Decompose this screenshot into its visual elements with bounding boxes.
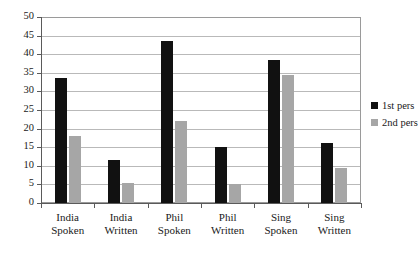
y-axis-tick-label: 35 <box>4 67 34 77</box>
y-axis-tick <box>37 36 41 37</box>
legend-label: 2nd pers <box>382 117 418 128</box>
bars-layer <box>42 18 360 203</box>
y-axis-tick <box>37 91 41 92</box>
x-axis-label-line: Spoken <box>251 224 311 237</box>
legend-item: 1st pers <box>371 97 417 114</box>
x-axis-tick <box>308 204 309 208</box>
bar-chart: 05101520253035404550 IndiaSpokenIndiaWri… <box>0 0 418 253</box>
y-axis-tick <box>37 147 41 148</box>
y-axis-tick-label: 10 <box>4 160 34 170</box>
x-axis-label-line: Written <box>91 224 151 237</box>
y-axis-tick <box>37 73 41 74</box>
x-axis-label-line: India <box>38 211 98 224</box>
x-axis-label-line: Spoken <box>38 224 98 237</box>
x-axis-label-line: Phil <box>144 211 204 224</box>
y-axis-tick-label: 0 <box>4 197 34 207</box>
y-axis-tick-label: 5 <box>4 178 34 188</box>
y-axis-tick-label: 45 <box>4 30 34 40</box>
x-axis-tick <box>41 204 42 208</box>
x-axis-tick-label: SingWritten <box>304 211 364 237</box>
y-axis-tick-label: 40 <box>4 48 34 58</box>
bar <box>122 183 134 203</box>
bar <box>321 143 333 203</box>
x-axis-tick <box>148 204 149 208</box>
y-axis-tick-label: 15 <box>4 141 34 151</box>
x-axis-tick <box>201 204 202 208</box>
legend-swatch-icon <box>371 102 378 109</box>
bar <box>69 136 81 203</box>
bar <box>282 75 294 203</box>
x-axis-label-line: Written <box>304 224 364 237</box>
y-axis-tick <box>37 110 41 111</box>
x-axis-tick-label: SingSpoken <box>251 211 311 237</box>
y-axis-tick-label: 30 <box>4 85 34 95</box>
legend-swatch-icon <box>371 119 378 126</box>
legend-item: 2nd pers <box>371 114 417 131</box>
x-axis-label-line: Phil <box>198 211 258 224</box>
bar <box>161 41 173 203</box>
bar <box>229 184 241 203</box>
x-axis-label-line: Sing <box>304 211 364 224</box>
y-axis-tick <box>37 166 41 167</box>
x-axis-label-line: Spoken <box>144 224 204 237</box>
y-axis-tick <box>37 129 41 130</box>
x-axis-tick <box>361 204 362 208</box>
y-axis-tick <box>37 54 41 55</box>
x-axis-tick <box>94 204 95 208</box>
y-axis-tick-label: 50 <box>4 11 34 21</box>
x-axis-label-line: India <box>91 211 151 224</box>
legend-label: 1st pers <box>382 100 414 111</box>
bar <box>55 78 67 203</box>
x-axis-label-line: Sing <box>251 211 311 224</box>
x-axis-tick <box>254 204 255 208</box>
bar <box>108 160 120 203</box>
bar <box>268 60 280 203</box>
x-axis-label-line: Written <box>198 224 258 237</box>
x-axis-tick-label: PhilWritten <box>198 211 258 237</box>
bar <box>335 168 347 203</box>
y-axis-tick <box>37 17 41 18</box>
x-axis-tick-label: IndiaWritten <box>91 211 151 237</box>
x-axis-tick-label: PhilSpoken <box>144 211 204 237</box>
legend: 1st pers2nd pers <box>371 97 417 131</box>
y-axis-tick-label: 20 <box>4 123 34 133</box>
x-axis-tick-label: IndiaSpoken <box>38 211 98 237</box>
y-axis-tick-label: 25 <box>4 104 34 114</box>
y-axis-tick <box>37 184 41 185</box>
bar <box>175 121 187 203</box>
bar <box>215 147 227 203</box>
